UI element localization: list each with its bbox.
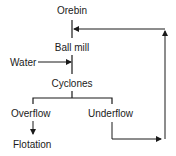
node-orebin: Orebin [57, 5, 87, 16]
edge-underflow-recycle [112, 122, 161, 139]
edge-cyclones-split [33, 98, 112, 104]
flow-diagram: Orebin Ball mill Water Cyclones Overflow… [0, 0, 176, 156]
node-ball-mill: Ball mill [55, 42, 89, 53]
node-underflow: Underflow [88, 108, 134, 119]
node-cyclones: Cyclones [51, 78, 92, 89]
node-overflow: Overflow [11, 108, 51, 119]
node-flotation: Flotation [13, 139, 51, 150]
node-water: Water [10, 57, 37, 68]
